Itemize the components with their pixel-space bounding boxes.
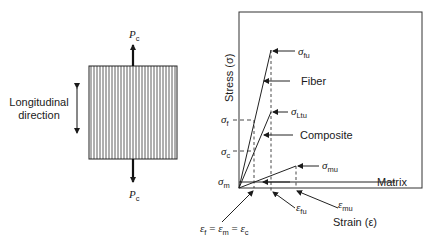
composite-curve bbox=[239, 112, 271, 188]
y-axis-label: Stress (σ) bbox=[223, 54, 235, 102]
label-sigma-Ltu: σLtu bbox=[291, 105, 307, 120]
y-tick-sigma-f: σf bbox=[221, 113, 229, 128]
label-sigma-mu: σmu bbox=[322, 159, 338, 174]
fiber-curve bbox=[239, 50, 271, 188]
callout-eps-common bbox=[222, 191, 253, 222]
longitudinal-label-line2: direction bbox=[18, 109, 60, 121]
x-axis-label: Strain (ε) bbox=[333, 216, 377, 228]
y-tick-sigma-m: σm bbox=[218, 175, 230, 190]
label-strain-equality: εf = εm = εc bbox=[200, 222, 249, 237]
label-eps-mu: εmu bbox=[338, 198, 353, 213]
y-tick-sigma-c: σc bbox=[221, 145, 230, 160]
label-fiber: Fiber bbox=[301, 75, 326, 87]
label-matrix: Matrix bbox=[377, 176, 407, 188]
composite-stress-strain-diagram: Pc Pc Longitudinal direction Stress (σ) … bbox=[0, 0, 438, 245]
callout-eps-fu bbox=[273, 192, 295, 208]
label-composite: Composite bbox=[300, 129, 353, 141]
label-sigma-fu: σfu bbox=[298, 45, 310, 60]
stress-strain-chart: Stress (σ) σf σc σm σfu Fiber σLtu Compo… bbox=[200, 12, 422, 237]
fiber-specimen-block bbox=[89, 66, 177, 159]
longitudinal-label-line1: Longitudinal bbox=[9, 96, 68, 108]
matrix-curve bbox=[239, 166, 296, 188]
specimen-group: Pc Pc Longitudinal direction bbox=[9, 28, 177, 203]
load-label-bottom: Pc bbox=[128, 188, 140, 203]
chart-frame bbox=[239, 12, 422, 188]
callout-eps-mu bbox=[297, 191, 338, 208]
label-eps-fu: εfu bbox=[296, 201, 307, 216]
load-label-top: Pc bbox=[128, 28, 140, 43]
